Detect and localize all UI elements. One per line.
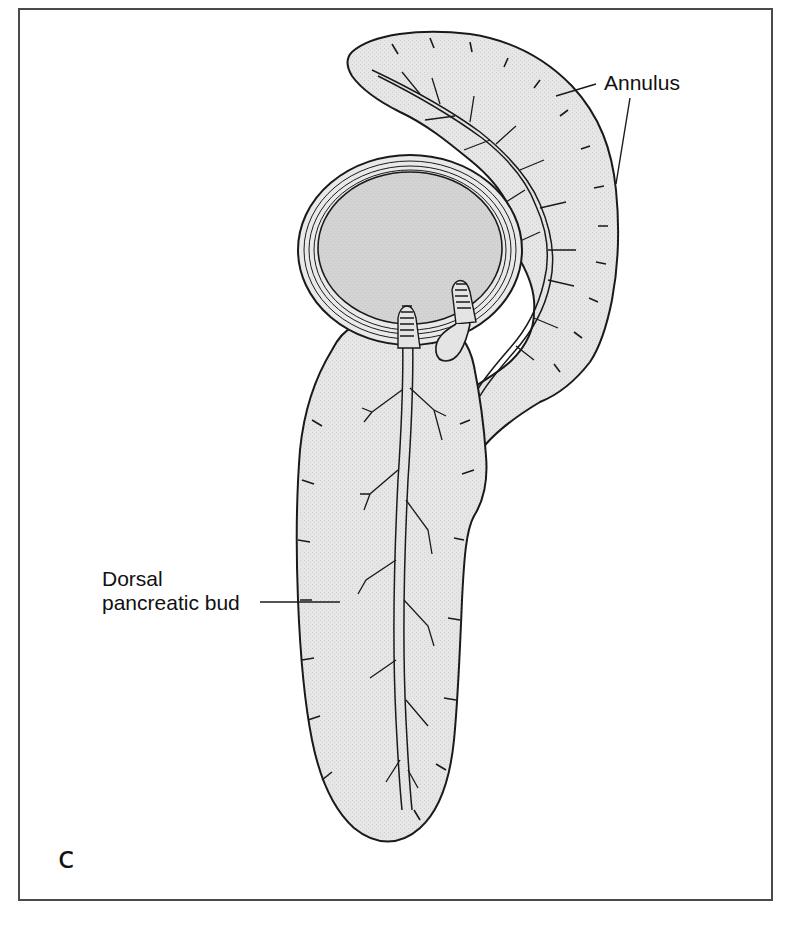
dorsal-pancreatic-bud [297, 318, 487, 842]
label-dorsal-line1: Dorsal [102, 566, 163, 592]
label-dorsal-line2: pancreatic bud [102, 590, 240, 616]
pancreas-illustration [0, 0, 805, 930]
panel-letter: c [58, 840, 75, 875]
duodenum-cross-section [298, 155, 522, 361]
label-annulus: Annulus [604, 70, 680, 96]
